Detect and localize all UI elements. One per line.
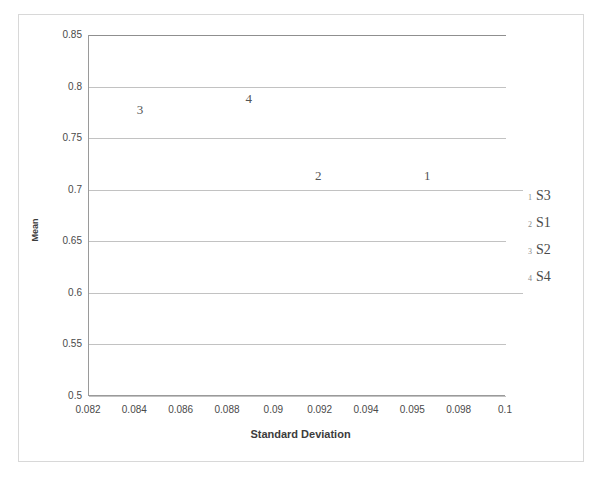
scatter-chart-figure: Mean 1234 0.50.550.60.650.70.750.80.85 0… [0,0,601,479]
y-axis-tick-label: 0.75 [36,133,82,143]
gridline [89,344,506,345]
gridline [89,396,506,397]
y-axis-title: Mean [30,200,40,260]
data-point-marker: 2 [307,168,329,183]
legend-label: S1 [536,215,551,231]
plot-area: 1234 [88,35,505,396]
y-axis-tick-label: 0.5 [36,391,82,401]
legend-entry: 3S2 [522,242,594,269]
legend-entry: 1S3 [522,188,594,215]
legend-entry: 4S4 [522,269,594,296]
y-axis-tick-label: 0.6 [36,288,82,298]
data-point-marker: 4 [238,91,260,106]
chart-legend: 1S32S13S24S4 [522,188,594,296]
y-axis-tick-label: 0.55 [36,339,82,349]
legend-marker: 4 [522,274,532,283]
y-axis-tick-label: 0.85 [36,30,82,40]
y-axis-tick-label: 0.8 [36,82,82,92]
gridline [89,190,523,191]
legend-label: S2 [536,242,551,258]
gridline [89,138,506,139]
gridline [89,241,506,242]
y-axis-tick-label: 0.7 [36,185,82,195]
legend-marker: 1 [522,193,532,202]
data-point-marker: 3 [129,102,151,117]
gridline [89,87,506,88]
legend-label: S3 [536,188,551,204]
gridline [89,35,506,36]
data-point-marker: 1 [416,168,438,183]
legend-entry: 2S1 [522,215,594,242]
x-axis-title: Standard Deviation [0,428,601,440]
y-axis-tick-label: 0.65 [36,236,82,246]
legend-marker: 2 [522,220,532,229]
x-axis-tick-label: 0.1 [475,405,535,415]
gridline [89,293,523,294]
legend-marker: 3 [522,247,532,256]
legend-label: S4 [536,269,551,285]
